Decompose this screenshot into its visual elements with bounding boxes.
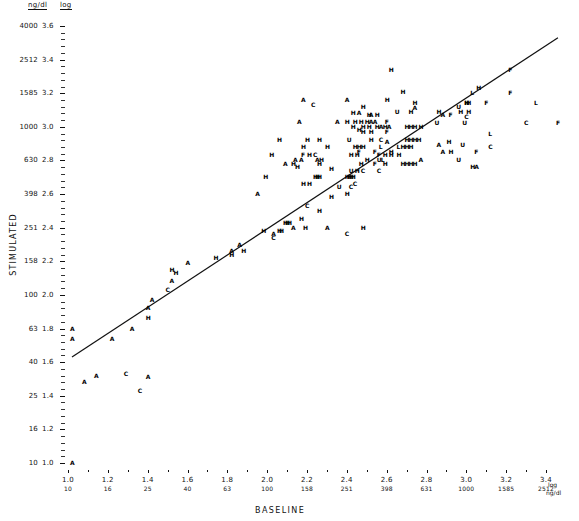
- data-point-marker-H: H: [466, 100, 471, 106]
- data-point-marker-C: C: [305, 203, 309, 209]
- data-point-marker-H: H: [349, 152, 354, 158]
- data-point-marker-F: F: [448, 112, 452, 118]
- data-point-marker-A: A: [474, 164, 479, 170]
- data-point-marker-U: U: [395, 109, 400, 115]
- data-point-marker-U: U: [456, 157, 461, 163]
- data-point-marker-H: H: [417, 137, 422, 143]
- data-point-marker-H: H: [261, 228, 266, 234]
- data-point-marker-F: F: [474, 149, 478, 155]
- data-point-marker-H: H: [303, 225, 308, 231]
- data-point-marker-H: H: [295, 164, 300, 170]
- data-point-marker-A: A: [291, 225, 296, 231]
- data-point-marker-C: C: [353, 181, 357, 187]
- data-point-marker-H: H: [301, 181, 306, 187]
- data-point-marker-H: H: [419, 124, 424, 130]
- data-point-marker-H: H: [361, 225, 366, 231]
- data-point-marker-A: A: [357, 110, 362, 116]
- scatter-plot-figure: ng/dl log STIMULATED BASELINE log ng/dl …: [0, 0, 579, 521]
- data-point-marker-C: C: [311, 102, 315, 108]
- data-point-marker-H: H: [213, 255, 218, 261]
- data-point-marker-H: H: [369, 137, 374, 143]
- data-point-marker-L: L: [470, 90, 474, 96]
- data-point-marker-H: H: [307, 181, 312, 187]
- data-point-marker-H: H: [317, 174, 322, 180]
- data-point-marker-L: L: [534, 100, 538, 106]
- data-point-marker-C: C: [524, 120, 528, 126]
- data-point-marker-H: H: [345, 119, 350, 125]
- data-point-marker-C: C: [345, 231, 349, 237]
- data-point-marker-A: A: [170, 278, 175, 284]
- data-point-marker-A: A: [130, 326, 135, 332]
- data-point-marker-C: C: [271, 235, 275, 241]
- data-point-marker-H: H: [409, 109, 414, 115]
- data-point-marker-C: C: [138, 388, 142, 394]
- data-point-marker-H: H: [277, 137, 282, 143]
- data-point-marker-C: C: [124, 371, 128, 377]
- data-point-marker-A: A: [345, 97, 350, 103]
- data-point-marker-H: H: [359, 161, 364, 167]
- data-point-marker-U: U: [337, 184, 342, 190]
- data-point-marker-F: F: [556, 120, 560, 126]
- data-point-marker-H: H: [325, 144, 330, 150]
- data-point-marker-L: L: [379, 144, 383, 150]
- data-point-marker-H: H: [361, 104, 366, 110]
- data-point-marker-C: C: [166, 287, 170, 293]
- data-point-marker-U: U: [347, 137, 352, 143]
- data-point-marker-H: H: [263, 174, 268, 180]
- data-point-marker-H: H: [409, 144, 414, 150]
- data-point-marker-A: A: [301, 97, 306, 103]
- data-point-marker-A: A: [297, 119, 302, 125]
- data-point-marker-A: A: [186, 260, 191, 266]
- data-point-marker-H: H: [446, 139, 451, 145]
- data-point-marker-H: H: [389, 67, 394, 73]
- data-point-marker-H: H: [351, 110, 356, 116]
- data-point-marker-F: F: [508, 67, 512, 73]
- data-point-marker-U: U: [462, 120, 467, 126]
- data-point-marker-A: A: [419, 157, 424, 163]
- data-point-marker-U: U: [460, 142, 465, 148]
- data-point-marker-F: F: [373, 161, 377, 167]
- data-point-marker-H: H: [269, 152, 274, 158]
- data-point-marker-A: A: [440, 149, 445, 155]
- data-point-marker-A: A: [255, 191, 260, 197]
- data-point-marker-H: H: [389, 152, 394, 158]
- data-point-marker-F: F: [484, 100, 488, 106]
- data-point-marker-C: C: [377, 168, 381, 174]
- data-point-marker-H: H: [351, 124, 356, 130]
- data-point-marker-L: L: [488, 131, 492, 137]
- data-point-marker-F: F: [508, 90, 512, 96]
- data-point-marker-A: A: [440, 112, 445, 118]
- data-point-marker-H: H: [413, 124, 418, 130]
- data-point-marker-H: H: [458, 109, 463, 115]
- data-point-marker-A: A: [385, 139, 390, 145]
- data-point-marker-H: H: [329, 194, 334, 200]
- data-point-marker-F: F: [385, 129, 389, 135]
- data-point-marker-H: H: [345, 191, 350, 197]
- data-point-marker-H: H: [317, 208, 322, 214]
- data-point-marker-A: A: [70, 460, 75, 466]
- data-point-marker-A: A: [70, 336, 75, 342]
- data-point-marker-A: A: [70, 326, 75, 332]
- data-point-marker-H: H: [397, 152, 402, 158]
- data-point-marker-H: H: [476, 85, 481, 91]
- data-point-marker-H: H: [317, 161, 322, 167]
- data-point-marker-A: A: [335, 119, 340, 125]
- data-point-marker-H: H: [401, 89, 406, 95]
- data-point-marker-H: H: [317, 137, 322, 143]
- data-point-marker-H: H: [329, 166, 334, 172]
- data-point-marker-H: H: [413, 161, 418, 167]
- data-point-marker-H: H: [365, 157, 370, 163]
- regression-line: [0, 0, 579, 521]
- data-point-marker-H: H: [361, 144, 366, 150]
- data-point-marker-A: A: [283, 161, 288, 167]
- data-point-marker-A: A: [325, 225, 330, 231]
- data-point-marker-U: U: [434, 120, 439, 126]
- data-point-marker-H: H: [174, 270, 179, 276]
- data-point-marker-H: H: [301, 144, 306, 150]
- data-point-marker-C: C: [488, 144, 492, 150]
- data-point-marker-H: H: [299, 216, 304, 222]
- data-point-marker-A: A: [94, 373, 99, 379]
- data-point-marker-A: A: [110, 336, 115, 342]
- data-point-marker-U: U: [377, 157, 382, 163]
- data-point-marker-A: A: [146, 374, 151, 380]
